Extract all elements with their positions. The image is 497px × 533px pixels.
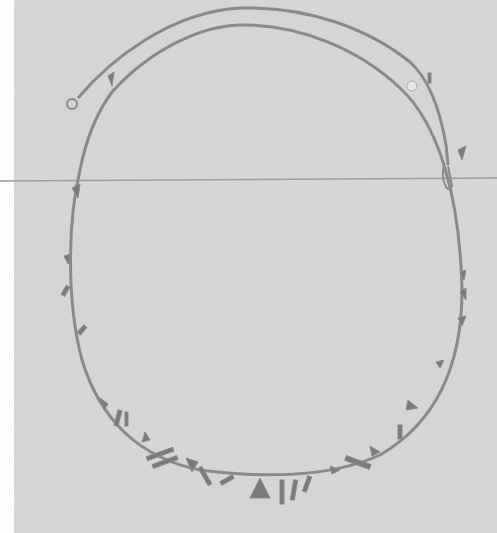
clasp-disc (407, 81, 417, 91)
necklace-illustration (0, 0, 497, 533)
necklace-photo (14, 0, 497, 533)
